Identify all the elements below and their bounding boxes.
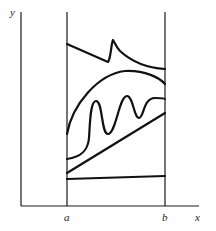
oscillating-curve: [67, 96, 165, 159]
a-label: a: [64, 211, 70, 223]
y-axis-label: y: [10, 6, 15, 18]
diagram-canvas: [0, 0, 216, 231]
x-axis-label: x: [195, 211, 200, 223]
b-label: b: [162, 211, 168, 223]
top-spiked-curve: [67, 40, 165, 69]
arch-curve: [67, 71, 165, 134]
bottom-flat-line: [67, 176, 165, 179]
